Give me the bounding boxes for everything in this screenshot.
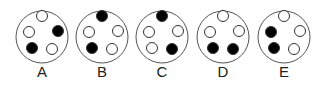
filled-dot-bottom-left [269, 43, 280, 54]
empty-dot-top [37, 11, 48, 22]
filled-dot-left [266, 27, 277, 38]
empty-dot-left [24, 27, 35, 38]
option-label-a: A [27, 63, 57, 80]
empty-dot-right [173, 26, 184, 37]
empty-dot-right [234, 26, 245, 37]
empty-dot-top [218, 11, 229, 22]
empty-dot-bottom-right [289, 44, 300, 55]
empty-dot-bottom-right [107, 44, 118, 55]
option-label-e: E [269, 63, 299, 80]
option-c [136, 11, 188, 64]
empty-dot-right [295, 26, 306, 37]
filled-dot-bottom-right [167, 44, 178, 55]
empty-dot-top [279, 11, 290, 22]
option-e [258, 11, 310, 64]
empty-dot-left [144, 27, 155, 38]
empty-dot-right [113, 26, 124, 37]
option-b [76, 11, 128, 64]
filled-dot-bottom-left [27, 43, 38, 54]
filled-dot-bottom-left [208, 43, 219, 54]
empty-dot-bottom-right [47, 44, 58, 55]
option-a [16, 11, 68, 64]
filled-dot-top [157, 11, 168, 22]
filled-dot-bottom-left [87, 43, 98, 54]
filled-dot-bottom-right [228, 44, 239, 55]
empty-dot-left [205, 27, 216, 38]
option-label-b: B [87, 63, 117, 80]
filled-dot-right [53, 26, 64, 37]
empty-dot-bottom-left [147, 43, 158, 54]
pattern-options-diagram: ABCDE [0, 0, 328, 87]
option-d [197, 11, 249, 64]
option-label-d: D [208, 63, 238, 80]
empty-dot-left [84, 27, 95, 38]
option-label-c: C [147, 63, 177, 80]
filled-dot-top [97, 11, 108, 22]
